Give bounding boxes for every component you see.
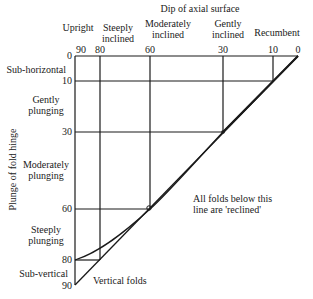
overlap-segment	[223, 56, 298, 132]
reclined-curve	[75, 56, 298, 260]
fold-classification-grid	[0, 0, 313, 299]
intersection-dot	[221, 130, 225, 134]
